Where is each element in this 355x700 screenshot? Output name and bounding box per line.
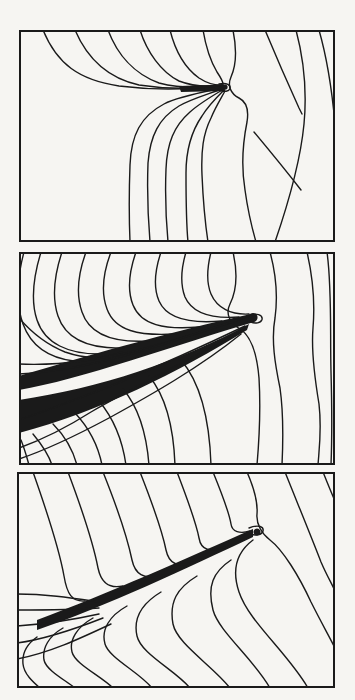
- streamline: [327, 252, 332, 465]
- streamline: [229, 30, 256, 242]
- streamline: [104, 606, 152, 688]
- streamline: [43, 30, 222, 89]
- streamline: [103, 472, 159, 577]
- streamline: [172, 576, 230, 688]
- streamline: [79, 252, 149, 341]
- current-sheet-wedge: [37, 529, 253, 630]
- streamline: [17, 594, 99, 602]
- streamline: [228, 252, 260, 465]
- streamline-figure: [0, 0, 355, 700]
- streamline: [319, 30, 335, 124]
- streamline-panel-2: [19, 252, 335, 465]
- streamline: [270, 252, 283, 465]
- streamline: [182, 252, 239, 317]
- streamline: [129, 252, 199, 328]
- streamline: [75, 413, 102, 465]
- streamline: [275, 30, 305, 242]
- streamline: [181, 360, 211, 465]
- streamline: [23, 637, 40, 688]
- streamline: [208, 252, 249, 314]
- streamline-panel-1: [19, 30, 335, 242]
- streamline: [71, 618, 113, 688]
- panel-frame: [20, 31, 334, 241]
- streamline: [19, 252, 74, 361]
- streamline: [129, 88, 223, 242]
- streamline: [203, 30, 223, 84]
- streamline: [21, 440, 29, 465]
- streamline: [149, 376, 175, 465]
- streamline: [75, 30, 222, 88]
- streamline: [140, 472, 193, 565]
- streamline: [123, 389, 149, 465]
- streamline: [265, 30, 302, 114]
- streamline: [247, 472, 335, 648]
- streamline: [104, 252, 174, 334]
- streamline-panel-3: [17, 472, 335, 688]
- streamline: [213, 472, 250, 532]
- streamline: [33, 472, 85, 601]
- streamline: [148, 89, 223, 243]
- streamline: [170, 30, 223, 85]
- streamline: [202, 91, 225, 242]
- streamline: [55, 252, 124, 348]
- streamline: [235, 540, 308, 688]
- streamline: [211, 560, 270, 688]
- streamline: [307, 252, 320, 465]
- streamline: [166, 89, 224, 242]
- streamline: [285, 472, 335, 591]
- streamline: [34, 252, 99, 354]
- streamline: [155, 252, 222, 322]
- streamline: [68, 472, 123, 587]
